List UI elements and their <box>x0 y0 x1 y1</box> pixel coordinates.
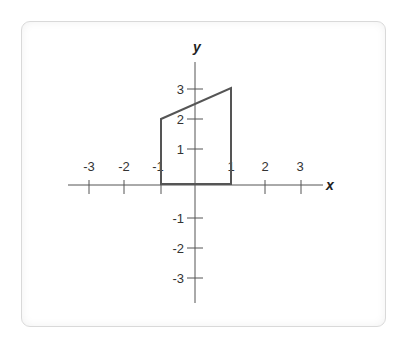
x-tick-label: -2 <box>118 159 130 174</box>
x-tick-label: 3 <box>296 159 303 174</box>
x-axis-label: x <box>325 177 335 193</box>
y-tick-label: 3 <box>177 82 184 97</box>
x-tick-label: -3 <box>83 159 95 174</box>
y-tick-label: 1 <box>177 142 184 157</box>
trapezoid-shape <box>161 88 231 184</box>
x-tick-label: -1 <box>152 159 164 174</box>
y-tick-label: -1 <box>172 211 184 226</box>
coordinate-plane: -3 -2 -1 1 2 3 3 2 1 -1 -2 -3 x y <box>0 0 407 343</box>
x-tick-label: 2 <box>261 159 268 174</box>
y-tick-label: -3 <box>172 271 184 286</box>
y-tick-label: 2 <box>177 112 184 127</box>
y-axis-label: y <box>192 39 202 55</box>
y-tick-label: -2 <box>172 241 184 256</box>
